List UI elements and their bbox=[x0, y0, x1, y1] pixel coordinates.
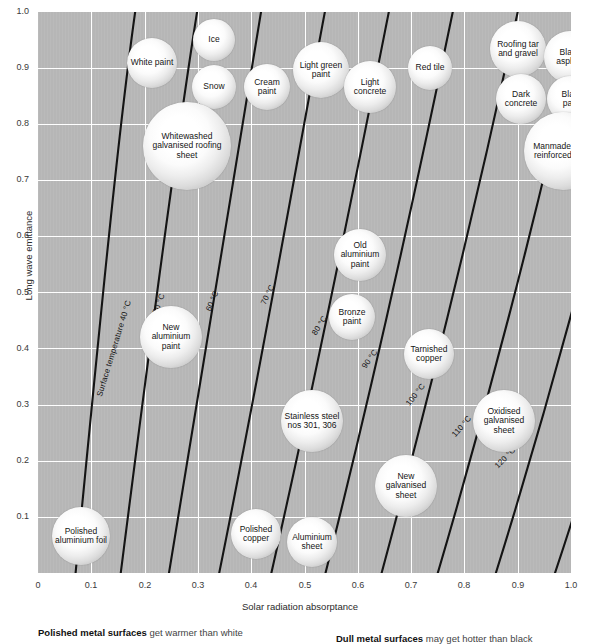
y-tick-0_5: 0.5 bbox=[0, 287, 29, 297]
bubble-new-galvanised-sheet[interactable]: New galvanised sheet bbox=[375, 455, 437, 517]
y-axis-title: Long wave emittance bbox=[23, 186, 34, 326]
x-tick-0: 0 bbox=[23, 580, 53, 590]
y-tick-0_2: 0.2 bbox=[0, 455, 29, 465]
bubble-snow[interactable]: Snow bbox=[192, 65, 236, 109]
x-tick-0_2: 0.2 bbox=[130, 580, 160, 590]
x-tick-0_7: 0.7 bbox=[396, 580, 426, 590]
y-tick-0_8: 0.8 bbox=[0, 118, 29, 128]
bubble-dark-concrete[interactable]: Dark concrete bbox=[496, 74, 546, 124]
footnote-right-rest: may get hotter than black bbox=[423, 633, 532, 644]
bubble-label: Snow bbox=[201, 82, 226, 91]
bubble-label: Old aluminium paint bbox=[334, 241, 386, 269]
x-tick-0_4: 0.4 bbox=[236, 580, 266, 590]
bubble-label: Black asphalt bbox=[544, 48, 571, 66]
bubble-label: Oxidised galvanised sheet bbox=[473, 407, 535, 435]
bubble-label: Whitewashed galvanised roofing sheet bbox=[143, 132, 231, 160]
bubble-new-aluminium-paint[interactable]: New aluminium paint bbox=[140, 306, 202, 368]
bubble-oxidised-galvanised-sheet[interactable]: Oxidised galvanised sheet bbox=[473, 390, 535, 452]
y-tick-0_7: 0.7 bbox=[0, 174, 29, 184]
bubble-label: New galvanised sheet bbox=[375, 472, 437, 500]
footnote-right-bold: Dull metal surfaces bbox=[336, 633, 423, 644]
x-tick-0_1: 0.1 bbox=[76, 580, 106, 590]
y-tick-1_0: 1.0 bbox=[0, 6, 29, 16]
bubble-label: Polished copper bbox=[231, 525, 281, 543]
bubble-white-paint[interactable]: White paint bbox=[127, 38, 177, 88]
footnote-left-rest: get warmer than white bbox=[147, 627, 243, 638]
bubble-roofing-tar-and-gravel[interactable]: Roofing tar and gravel bbox=[490, 21, 546, 77]
bubble-red-tile[interactable]: Red tile bbox=[408, 46, 452, 90]
bubble-label: White paint bbox=[129, 58, 176, 67]
bubble-cream-paint[interactable]: Cream paint bbox=[244, 64, 290, 110]
footnote-dull-metal: Dull metal surfaces may get hotter than … bbox=[336, 633, 532, 644]
bubble-bronze-paint[interactable]: Bronze paint bbox=[329, 294, 375, 340]
y-tick-0_1: 0.1 bbox=[0, 511, 29, 521]
x-axis-title: Solar radiation absorptance bbox=[0, 601, 600, 612]
y-tick-0_9: 0.9 bbox=[0, 62, 29, 72]
bubble-label: Light green paint bbox=[293, 61, 349, 79]
bubble-old-aluminium-paint[interactable]: Old aluminium paint bbox=[334, 229, 386, 281]
y-tick-0_4: 0.4 bbox=[0, 343, 29, 353]
bubble-whitewashed-galvanised-roofing-sheet[interactable]: Whitewashed galvanised roofing sheet bbox=[143, 102, 231, 190]
x-tick-1_0: 1.0 bbox=[556, 580, 586, 590]
footnote-polished-metal: Polished metal surfaces get warmer than … bbox=[38, 627, 243, 638]
y-tick-0_3: 0.3 bbox=[0, 399, 29, 409]
bubble-label: Tarnished copper bbox=[404, 345, 454, 363]
bubble-label: New aluminium paint bbox=[140, 323, 202, 351]
y-tick-0_6: 0.6 bbox=[0, 230, 29, 240]
bubble-label: Ice bbox=[206, 35, 221, 44]
bubble-polished-copper[interactable]: Polished copper bbox=[231, 509, 281, 559]
bubble-label: Red tile bbox=[414, 63, 447, 72]
chart-plot-area: Surface temperature 40 °C 50 °C 60 °C 70… bbox=[38, 12, 571, 573]
bubble-label: Cream paint bbox=[244, 78, 290, 96]
bubble-label: Aluminium sheet bbox=[287, 533, 337, 551]
bubble-polished-aluminium-foil[interactable]: Polished aluminium foil bbox=[52, 507, 110, 565]
bubble-label: Stainless steel nos 301, 306 bbox=[281, 412, 343, 430]
bubble-label: Manmade fibre- reinforced slate bbox=[524, 142, 571, 160]
bubble-label: Bronze paint bbox=[329, 308, 375, 326]
bubble-stainless-steel[interactable]: Stainless steel nos 301, 306 bbox=[281, 390, 343, 452]
x-tick-0_3: 0.3 bbox=[183, 580, 213, 590]
x-tick-0_8: 0.8 bbox=[449, 580, 479, 590]
x-tick-0_5: 0.5 bbox=[290, 580, 320, 590]
bubble-label: Dark concrete bbox=[496, 90, 546, 108]
bubble-label: Light concrete bbox=[344, 78, 396, 96]
bubble-light-green-paint[interactable]: Light green paint bbox=[293, 42, 349, 98]
bubble-light-concrete[interactable]: Light concrete bbox=[344, 61, 396, 113]
footnote-left-bold: Polished metal surfaces bbox=[38, 627, 147, 638]
bubble-label: Roofing tar and gravel bbox=[490, 40, 546, 58]
bubble-ice[interactable]: Ice bbox=[193, 19, 235, 61]
iso-temperature-curves bbox=[38, 12, 571, 573]
bubble-label: Polished aluminium foil bbox=[52, 527, 110, 545]
x-tick-0_9: 0.9 bbox=[503, 580, 533, 590]
bubble-aluminium-sheet[interactable]: Aluminium sheet bbox=[287, 517, 337, 567]
bubble-label-black-paint: Black paint bbox=[551, 90, 571, 108]
bubble-tarnished-copper[interactable]: Tarnished copper bbox=[404, 329, 454, 379]
x-tick-0_6: 0.6 bbox=[343, 580, 373, 590]
